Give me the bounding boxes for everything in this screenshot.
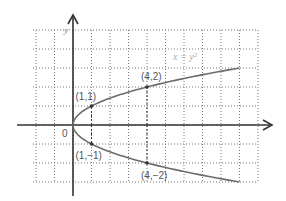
equation-label: x = y² <box>172 51 198 62</box>
grid-lines <box>33 30 258 182</box>
point-label: (4,−2) <box>141 170 167 181</box>
data-point <box>145 161 149 165</box>
point-label: (1,1) <box>76 91 97 102</box>
point-label: (4,2) <box>141 71 162 82</box>
y-axis-label: y <box>63 25 68 35</box>
parabola-chart: y 0 x = y² (1,1)(4,2)(1,−1)(4,−2) <box>0 0 286 201</box>
origin-label: 0 <box>62 128 68 139</box>
point-label: (1,−1) <box>76 150 102 161</box>
data-point <box>90 142 94 146</box>
data-point <box>90 104 94 108</box>
data-point <box>145 85 149 89</box>
